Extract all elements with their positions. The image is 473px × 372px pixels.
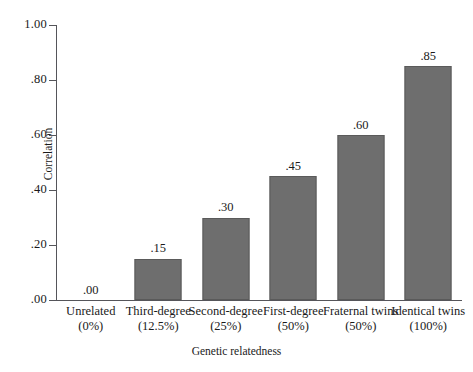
y-axis-tick-label: .40 xyxy=(0,183,47,196)
y-axis-tick-mark xyxy=(49,25,56,26)
bar[interactable] xyxy=(270,176,317,300)
bar-slot: .15 xyxy=(125,25,193,300)
bar[interactable] xyxy=(337,135,384,300)
bar[interactable] xyxy=(202,218,249,301)
x-axis-category-sublabel: (100%) xyxy=(387,319,471,334)
y-axis-tick-label: 1.00 xyxy=(0,18,47,31)
bar-value-label: .30 xyxy=(218,201,234,214)
y-axis-tick-label: .60 xyxy=(0,128,47,141)
bar[interactable] xyxy=(135,259,182,300)
bar-chart: Correlation 1.00.80.60.40.20.00 .00.15.3… xyxy=(0,0,473,372)
x-axis-title: Genetic relatedness xyxy=(0,345,473,357)
bar-slot: .45 xyxy=(260,25,328,300)
y-axis-tick-mark xyxy=(49,190,56,191)
bar-slot: .00 xyxy=(57,25,125,300)
y-axis-tick-mark xyxy=(49,300,56,301)
x-axis-line xyxy=(56,300,462,301)
bar-value-label: .60 xyxy=(353,119,369,132)
x-axis-category-labels: Unrelated(0%)Third-degree(12.5%)Second-d… xyxy=(57,304,462,344)
bar-value-label: .85 xyxy=(420,50,436,63)
bar-value-label: .00 xyxy=(83,284,99,297)
y-axis-tick-mark xyxy=(49,135,56,136)
y-axis-title: Correlation xyxy=(42,94,54,214)
y-axis-tick-mark xyxy=(49,80,56,81)
bar-value-label: .45 xyxy=(285,160,301,173)
y-axis-tick-label: .00 xyxy=(0,293,47,306)
x-axis-category-name: Identical twins xyxy=(387,304,471,319)
y-axis-tick-label: .20 xyxy=(0,238,47,251)
plot-area: .00.15.30.45.60.85 xyxy=(57,25,462,300)
bar-slot: .85 xyxy=(395,25,463,300)
bar[interactable] xyxy=(405,66,452,300)
bar-slot: .60 xyxy=(327,25,395,300)
y-axis-tick-label: .80 xyxy=(0,73,47,86)
x-axis-category: Identical twins(100%) xyxy=(387,304,471,334)
bar-value-label: .15 xyxy=(150,242,166,255)
bar-slot: .30 xyxy=(192,25,260,300)
y-axis-tick-mark xyxy=(49,245,56,246)
